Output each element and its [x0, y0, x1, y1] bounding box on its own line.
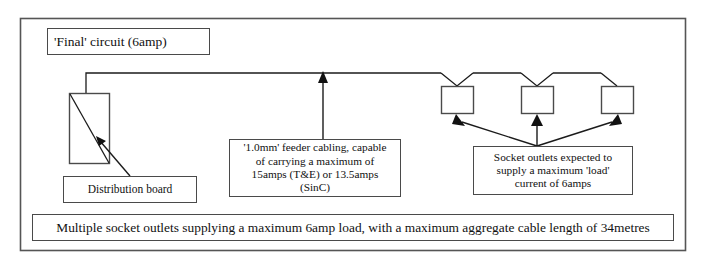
title-box: 'Final' circuit (6amp): [47, 28, 210, 55]
circuit-diagram: 'Final' circuit (6amp) Distribution boar…: [0, 0, 705, 273]
title-text: 'Final' circuit (6amp): [54, 34, 167, 50]
distribution-board-label: Distribution board: [63, 176, 197, 203]
summary-banner: Multiple socket outlets supplying a maxi…: [32, 214, 674, 241]
feeder-cable-line-1: '1.0mm' feeder cabling, capable: [243, 141, 386, 154]
socket-load-label: Socket outlets expected to supply a maxi…: [473, 146, 633, 195]
distribution-board-label-text: Distribution board: [88, 183, 173, 197]
summary-banner-text: Multiple socket outlets supplying a maxi…: [56, 220, 650, 236]
socket-outlet-1: [442, 87, 474, 114]
feeder-cable-line-2: of carrying a maximum of: [256, 155, 375, 168]
socket-outlet-2: [522, 87, 554, 114]
feeder-cable-label: '1.0mm' feeder cabling, capable of carry…: [229, 139, 401, 197]
socket-tap-2: [521, 73, 553, 86]
socket-pointer-arrowhead-1: [452, 114, 465, 126]
socket-load-line-3: current of 6amps: [515, 177, 592, 190]
socket-outlet-3: [602, 87, 634, 114]
socket-load-line-2: supply a maximum 'load': [497, 164, 610, 177]
socket-pointer-line-1: [462, 122, 537, 146]
socket-tap-1: [441, 73, 473, 86]
socket-pointer-arrowhead-2: [531, 114, 543, 126]
socket-pointer-arrowhead-3: [609, 114, 622, 126]
socket-tap-3: [601, 73, 617, 86]
socket-pointer-line-3: [537, 122, 612, 146]
socket-load-line-1: Socket outlets expected to: [494, 151, 612, 164]
feeder-cable-line-3: 15amps (T&E) or 13.5amps: [252, 168, 379, 181]
feeder-cable-line-4: (SinC): [300, 181, 330, 194]
bus-wire-left-segment: [86, 73, 441, 93]
